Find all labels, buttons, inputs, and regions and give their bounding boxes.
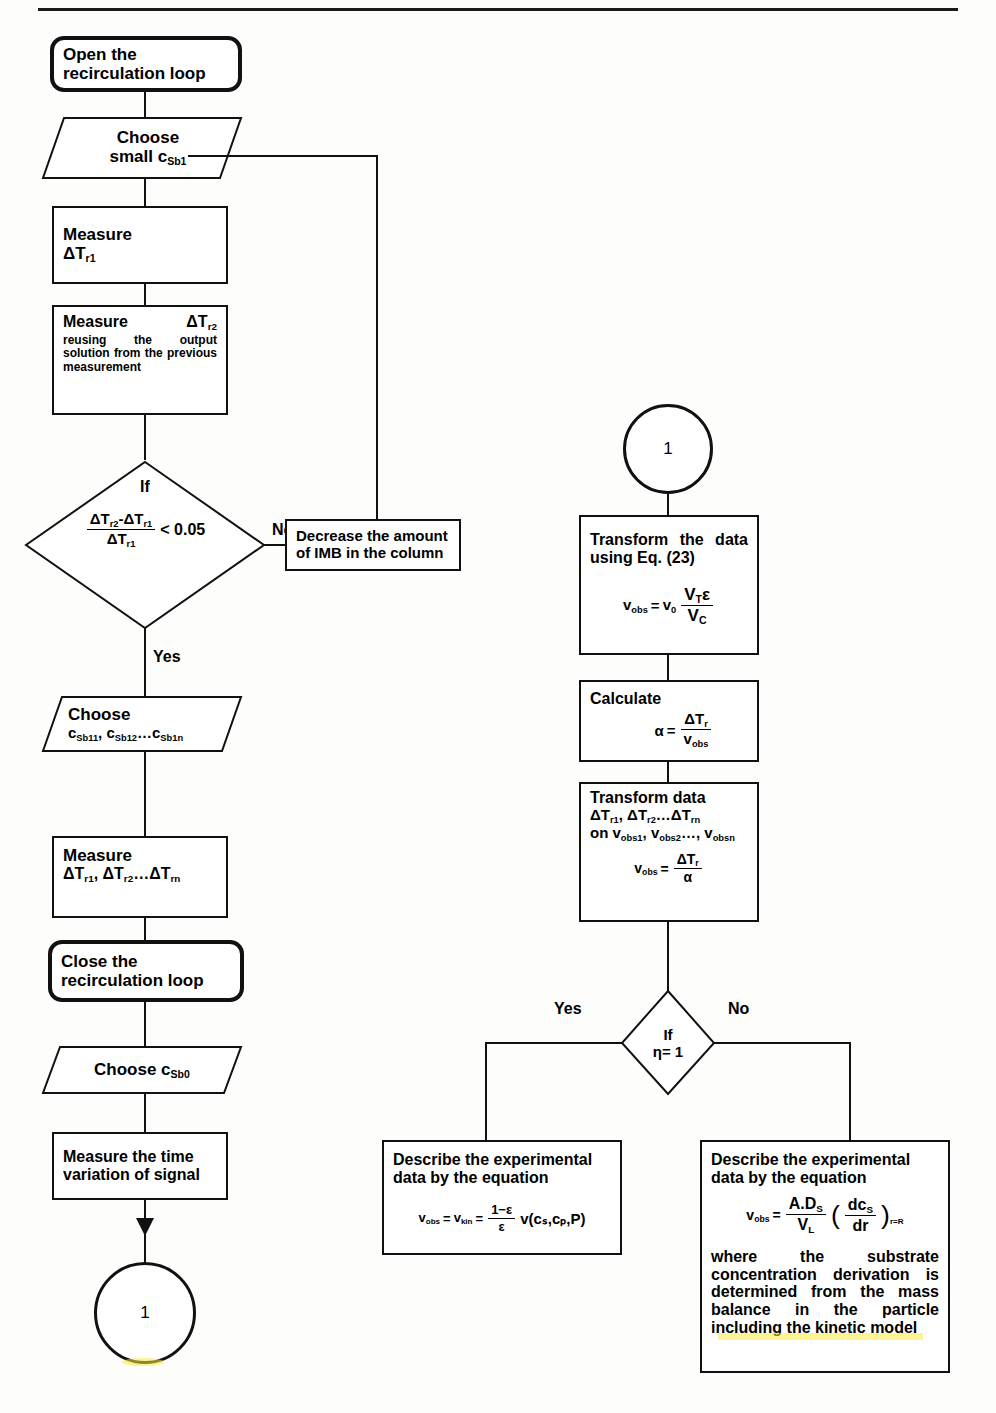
node-label-line1: Close the [52,952,240,971]
node-calculate-alpha[interactable]: Calculate α = ΔTr vobs [579,680,759,762]
connector-chooseseries-to-measureseries [144,752,146,836]
edge-label-yes-top: Yes [153,648,181,666]
node-note: where the substrate concentration deriva… [702,1248,948,1338]
node-equation: α = ΔTr vobs [581,710,757,750]
connector-choose-to-measure1 [144,179,146,206]
node-choose-small-csb1[interactable]: Choose small cSb1 [42,117,242,179]
node-label-line2: ΔTr1 [54,244,226,265]
connector-circle-1-top[interactable]: 1 [623,404,713,494]
node-transform-eq23[interactable]: Transform the data using Eq. (23) vobs =… [579,515,759,655]
node-label-line2: recirculation loop [54,64,238,83]
decision-formula: ΔTr2-ΔTr1 ΔTr1 < 0.05 [85,510,205,550]
scan-highlight-artifact [122,1358,164,1366]
node-decision-eta[interactable]: If η= 1 [620,990,716,1096]
node-label-line2: data by the equation [702,1169,948,1187]
node-equation: vobs = vkin = 1−ε ε v(cₛ,cₚ,P) [384,1203,620,1235]
edge-label-no-bottom: No [728,1000,749,1018]
node-label-line1: Describe the experimental [702,1151,948,1169]
connector-eta-yes-horizontal [485,1042,622,1044]
node-label-line1: Describe the experimental [384,1151,620,1169]
connector-eta-yes-vertical [485,1042,487,1140]
node-label-line1: Measure [54,846,226,865]
node-label-line2: ΔTr1, ΔTr2…ΔTrn [581,807,757,825]
connector-label: 1 [663,439,672,459]
connector-choosesb0-to-measuretime [144,1094,146,1132]
flowchart-canvas: Open the recirculation loop Choose small… [0,0,996,1413]
node-label-line2: small cSb1 [54,147,242,168]
node-label-line1: Measure [54,225,226,244]
connector-measureseries-to-closeloop [144,918,146,940]
node-decrease-imb[interactable]: Decrease the amount of IMB in the column [285,519,461,571]
node-label-line2: ΔTr1, ΔTr2…ΔTrn [54,865,226,884]
decision-if-label: If [140,478,150,496]
arrowhead-down-icon [136,1218,154,1236]
node-close-recirculation-loop[interactable]: Close the recirculation loop [48,940,244,1002]
node-equation: vobs = v0 VTε VC [581,585,757,627]
decision-condition: η= 1 [653,1043,683,1060]
connector-decision-no-to-decrease [264,544,286,546]
connector-measure2-to-decision [144,415,146,460]
connector-eta-no-vertical [849,1042,851,1140]
node-choose-csb0[interactable]: Choose cSb0 [42,1046,242,1094]
connector-choose-to-decrease-vertical [376,155,378,520]
connector-eta-stem [667,936,669,992]
node-equation: vobs = A.DS VL ( dcS dr ) r=R [702,1195,948,1236]
node-open-recirculation-loop[interactable]: Open the recirculation loop [50,36,242,92]
connector-calculate-to-transformdata [667,762,669,782]
node-equation: vobs = ΔTr α [581,851,757,886]
connector-circle-1-bottom[interactable]: 1 [94,1262,196,1364]
node-measure-series[interactable]: Measure ΔTr1, ΔTr2…ΔTrn [52,836,228,918]
node-measure-time-variation[interactable]: Measure the time variation of signal [52,1132,228,1200]
node-label-line1: Measure the time [54,1148,226,1166]
paren-open: ( [831,1205,840,1226]
node-label: Choose cSb0 [42,1060,242,1080]
node-label-line1: Transform data [581,789,757,807]
node-measure-delta-tr2[interactable]: Measure ΔTr2 reusing the output solution… [52,305,228,415]
connector-label: 1 [140,1303,149,1323]
node-label-line2: of IMB in the column [287,545,459,562]
node-label-line2: data by the equation [384,1169,620,1187]
node-label-line1: Choose [54,128,242,147]
paren-close: ) [881,1205,890,1226]
header-divider [38,8,958,11]
node-label-body: reusing the output solution from the pre… [54,334,226,374]
node-decision-ratio[interactable]: If ΔTr2-ΔTr1 ΔTr1 < 0.05 [24,460,266,630]
node-label-line2: recirculation loop [52,971,240,990]
connector-choose-to-decrease-horizontal [188,155,378,157]
connector-circle1-to-transform [667,494,669,515]
node-transform-data[interactable]: Transform data ΔTr1, ΔTr2…ΔTrn on vobs1,… [579,782,759,922]
node-label-line2: variation of signal [54,1166,226,1184]
node-label-line3: on vobs1, vobs2…, vobsn [581,825,757,843]
connector-measure1-to-measure2 [144,284,146,305]
connector-open-to-choose [144,92,146,117]
node-describe-kinetic[interactable]: Describe the experimental data by the eq… [382,1140,622,1255]
connector-closeloop-to-choosesb0 [144,1002,146,1046]
decision-if-label: If [663,1026,672,1043]
scan-highlight-artifact-2 [718,1333,923,1340]
node-label-line2: cSb11, cSb12…cSb1n [68,725,242,743]
node-label-line1: Decrease the amount [287,528,459,545]
node-label-line1: Open the [54,45,238,64]
node-measure-delta-tr1[interactable]: Measure ΔTr1 [52,206,228,284]
node-label: Calculate [581,690,757,708]
connector-transform-to-calculate [667,655,669,680]
connector-eta-no-horizontal [714,1042,851,1044]
node-choose-csb-series[interactable]: Choose cSb11, cSb12…cSb1n [42,696,242,752]
node-label-line1: Choose [68,705,242,724]
node-label-head: Measure ΔTr2 [54,313,226,332]
node-label-text: Transform the data using Eq. (23) [581,531,757,567]
edge-label-yes-bottom: Yes [554,1000,582,1018]
